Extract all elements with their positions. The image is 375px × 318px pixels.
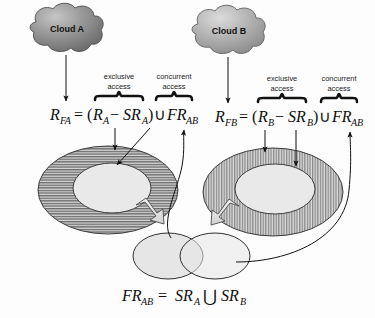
formula-bottom: FR AB = SR A ⋃ SR B bbox=[121, 287, 246, 307]
formula-right-close-paren: ) bbox=[313, 108, 318, 126]
formula-left-equals: = bbox=[74, 106, 83, 123]
exclusive-access-label-line1: exclusive bbox=[104, 72, 134, 81]
formula-left-union: ∪ bbox=[154, 106, 166, 123]
formula-left-lhs-sub: FA bbox=[59, 115, 72, 126]
formula-left-minus: − bbox=[110, 106, 119, 123]
concurrent-access-label-line1: concurrent bbox=[157, 72, 192, 81]
concurrent-access-label-right-line1: concurrent bbox=[322, 74, 357, 83]
formula-left-close-paren: ) bbox=[148, 106, 153, 124]
formula-left-open-paren: ( bbox=[87, 106, 92, 124]
venn-ellipse-srb bbox=[180, 233, 250, 279]
formula-left-term1-base: R bbox=[92, 106, 103, 123]
exclusive-access-label-line2: access bbox=[107, 82, 130, 91]
formula-bottom-union: ⋃ bbox=[203, 287, 217, 306]
formula-bottom-term2-sub: B bbox=[240, 296, 246, 307]
formula-right-term1-base: R bbox=[257, 108, 268, 125]
brace-exclusive-left bbox=[95, 92, 143, 100]
diagram-root: Cloud A Cloud B exclusive access concurr… bbox=[0, 0, 375, 318]
annotation-concurrent-right: concurrent access bbox=[321, 74, 357, 102]
venn-diagram-frab bbox=[133, 233, 250, 279]
formula-bottom-term1-sub: A bbox=[193, 296, 201, 307]
left-inner-ellipse bbox=[73, 163, 151, 213]
formula-right-term3-sub: AB bbox=[350, 117, 363, 128]
annotation-exclusive-left: exclusive access bbox=[95, 72, 143, 100]
cloud-a: Cloud A bbox=[30, 3, 103, 51]
formula-right-lhs-base: R bbox=[214, 108, 225, 125]
right-inner-ellipse bbox=[235, 164, 315, 214]
formula-left-term3-sub: AB bbox=[185, 115, 198, 126]
right-resource-ellipse-group bbox=[203, 148, 343, 236]
formula-right-open-paren: ( bbox=[252, 108, 257, 126]
annotation-exclusive-right: exclusive access bbox=[258, 74, 306, 102]
concurrent-access-label-right-line2: access bbox=[327, 84, 350, 93]
formula-bottom-lhs-sub: AB bbox=[140, 296, 153, 307]
formula-bottom-term1-base: SR bbox=[175, 287, 193, 304]
formula-right-equals: = bbox=[239, 108, 248, 125]
brace-concurrent-left bbox=[156, 92, 192, 100]
concurrent-access-label-line2: access bbox=[162, 82, 185, 91]
formula-left: R FA = ( R A − SR A ) ∪ FR AB bbox=[49, 106, 198, 126]
exclusive-access-label-right-line1: exclusive bbox=[267, 74, 297, 83]
exclusive-access-label-right-line2: access bbox=[270, 84, 293, 93]
formula-left-term2-base: SR bbox=[123, 106, 141, 123]
diagram-canvas: Cloud A Cloud B exclusive access concurr… bbox=[0, 0, 375, 318]
formula-bottom-lhs-base: FR bbox=[121, 287, 142, 304]
brace-concurrent-right bbox=[321, 94, 357, 102]
formula-left-term1-sub: A bbox=[102, 115, 110, 126]
brace-exclusive-right bbox=[258, 94, 306, 102]
cloud-b: Cloud B bbox=[192, 5, 265, 53]
cloud-a-label: Cloud A bbox=[50, 24, 85, 34]
formula-bottom-term2-base: SR bbox=[221, 287, 239, 304]
cloud-b-label: Cloud B bbox=[212, 26, 247, 36]
formula-left-term3-base: FR bbox=[166, 106, 187, 123]
formula-right-lhs-sub: FB bbox=[224, 117, 237, 128]
formula-right-minus: − bbox=[275, 108, 284, 125]
annotation-concurrent-left: concurrent access bbox=[156, 72, 192, 100]
formula-right: R FB = ( R B − SR B ) ∪ FR AB bbox=[214, 108, 363, 128]
formula-right-term3-base: FR bbox=[331, 108, 352, 125]
formula-left-lhs-base: R bbox=[49, 106, 60, 123]
formula-bottom-equals: = bbox=[158, 287, 167, 304]
formula-right-union: ∪ bbox=[319, 108, 331, 125]
formula-right-term1-sub: B bbox=[268, 117, 274, 128]
formula-right-term2-base: SR bbox=[288, 108, 306, 125]
